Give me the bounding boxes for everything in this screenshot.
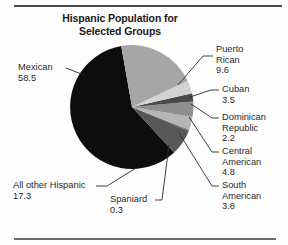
leader-line-dominican-republic [191,104,219,118]
pie-label-mexican-name: Mexican [18,62,53,72]
pie-label-south-american-name-2: American [222,191,261,202]
pie-label-dominican-republic-value: 2.2 [222,133,266,144]
pie-label-central-american-value: 4.8 [222,167,261,178]
pie-label-spaniard-value: 0.3 [110,205,147,216]
pie-label-puerto-rican-name-1: Puerto [216,44,243,54]
pie-label-puerto-rican: Puerto Rican 9.6 [216,44,243,76]
pie-label-dominican-republic-name-2: Republic [222,123,266,134]
pie-label-central-american: Central American 4.8 [222,146,261,178]
pie-label-all-other-hispanic: All other Hispanic 17.3 [13,180,85,201]
pie-label-dominican-republic-name-1: Dominican [222,112,266,122]
pie-label-puerto-rican-value: 9.6 [216,65,243,76]
pie-label-mexican-value: 58.5 [18,73,53,84]
pie-label-central-american-name-2: American [222,157,261,168]
pie-slices [70,45,193,169]
pie-label-cuban-name: Cuban [222,84,249,94]
bottom-divider-rule [14,238,276,240]
pie-label-spaniard: Spaniard 0.3 [110,194,147,215]
pie-label-all-other-hispanic-name: All other Hispanic [13,180,85,190]
pie-label-spaniard-name: Spaniard [110,194,147,204]
pie-label-mexican: Mexican 58.5 [18,62,53,83]
leader-line-south-american [179,133,219,186]
chart-figure: Hispanic Population for Selected Groups [0,0,288,245]
pie-label-puerto-rican-name-2: Rican [216,55,243,66]
pie-label-cuban: Cuban 3.5 [222,84,249,105]
pie-label-central-american-name-1: Central [222,146,252,156]
pie-label-all-other-hispanic-value: 17.3 [13,191,85,202]
leader-line-central-american [189,117,219,152]
pie-label-south-american-name-1: South [222,180,246,190]
leader-line-all-other-hispanic [96,168,136,186]
pie-label-south-american-value: 3.8 [222,201,261,212]
pie-label-dominican-republic: Dominican Republic 2.2 [222,112,266,144]
pie-label-south-american: South American 3.8 [222,180,261,212]
pie-label-cuban-value: 3.5 [222,95,249,106]
leader-line-cuban [190,90,219,97]
